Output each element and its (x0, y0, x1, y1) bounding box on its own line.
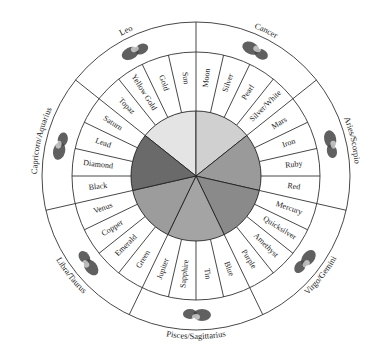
cell-label: Red (287, 181, 301, 191)
correspondence-wheel: TopazYellow GoldGoldSunLeoMoonSilverPear… (0, 0, 382, 356)
cell-label: Green (134, 248, 152, 269)
goat-waterbearer-icon (51, 131, 69, 161)
zodiac-label-moon: Cancer (253, 21, 280, 41)
cell-label: Quicksilver (262, 214, 299, 242)
lion-icon (120, 40, 150, 63)
cell-label: Silver (220, 72, 235, 93)
cell-label: Ruby (285, 159, 303, 170)
cell-label: Tin (203, 268, 213, 280)
virgin-twins-icon (292, 247, 319, 276)
cell-label: Moon (201, 68, 212, 88)
cell-divider (168, 55, 181, 113)
cell-label: Black (88, 181, 108, 192)
cell-label: Amethyst (252, 231, 281, 260)
fish-archer-icon (183, 309, 211, 321)
cell-label: Sun (180, 71, 190, 84)
cell-divider (210, 55, 223, 113)
ram-scorpion-icon (322, 129, 340, 159)
crab-icon (240, 39, 270, 62)
cell-label: Jupiter (155, 257, 171, 281)
cell-label: Mercury (275, 199, 304, 217)
planet-pie (131, 111, 261, 241)
cell-label: Pearl (240, 82, 257, 101)
sector-divider (46, 190, 133, 210)
cell-label: Mars (270, 115, 289, 131)
zodiac-label-saturn: Capricorn/Aquarius (29, 105, 54, 174)
cell-label: Iron (281, 136, 297, 149)
zodiac-label-sun: Leo (117, 23, 133, 38)
cell-label: Emerald (113, 232, 139, 258)
cell-label: Blue (222, 260, 236, 278)
cell-label: Venus (92, 200, 113, 215)
cell-label: Diamond (83, 158, 114, 170)
cell-label: Lead (94, 136, 112, 150)
cell-label: Gold (157, 74, 171, 92)
cell-label: Sapphire (178, 259, 190, 289)
scales-bull-icon (75, 249, 102, 278)
